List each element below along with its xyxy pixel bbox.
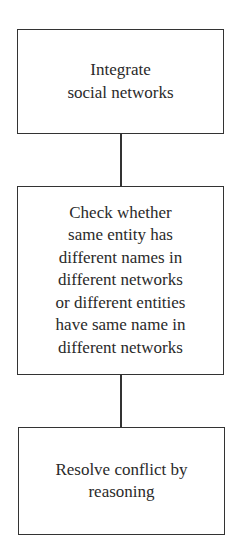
node-text-line: different networks (58, 337, 183, 360)
node-text-line: social networks (67, 82, 173, 105)
node-text-line: same entity has (68, 224, 173, 247)
node-text-line: have same name in (56, 314, 186, 337)
node-integrate-social-networks: Integrate social networks (17, 29, 224, 134)
node-text-line: different names in (59, 247, 182, 270)
node-resolve-conflict: Resolve conflict by reasoning (18, 427, 225, 535)
node-text-line: Resolve conflict by (55, 459, 187, 482)
node-text-line: Integrate (90, 59, 150, 82)
node-check-entity-names: Check whether same entity has different … (17, 186, 224, 375)
node-text-line: different networks (58, 269, 183, 292)
connector-check-to-resolve (120, 374, 122, 428)
node-text-line: Check whether (69, 202, 171, 225)
connector-integrate-to-check (120, 133, 122, 187)
node-text-line: or different entities (56, 292, 186, 315)
node-text-line: reasoning (88, 481, 154, 504)
